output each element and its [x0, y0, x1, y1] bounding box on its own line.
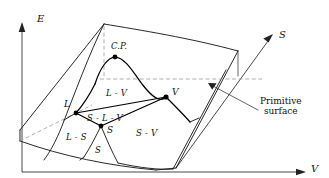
- diagram-canvas: [0, 0, 329, 178]
- region-label-liquid-solid: L - S: [66, 133, 87, 142]
- region-label-solid-liquid-vapor: S - L - V: [87, 114, 123, 123]
- energy-axis-label: E: [37, 14, 44, 25]
- surface-bottom-front-edge: [20, 141, 156, 170]
- liquid-point-dot: [74, 111, 79, 116]
- liquid-point-label: L: [64, 100, 70, 109]
- entropy-axis-line: [176, 41, 268, 168]
- vapor-point-label: V: [172, 88, 179, 97]
- critical-point-dot: [113, 55, 118, 60]
- primitive-surface-callout: Primitive surface: [260, 96, 302, 117]
- primitive-surface-outline: [20, 24, 238, 170]
- region-label-solid: S: [95, 146, 101, 155]
- entropy-axis-label: S: [279, 30, 286, 41]
- vapor-region-right-tick: [190, 118, 199, 122]
- primitive-surface-callout-line1: Primitive: [260, 96, 302, 106]
- solid-vapor-lower-boundary: [118, 163, 173, 169]
- solid-point-label: S: [107, 126, 113, 135]
- region-label-liquid-vapor: L - V: [106, 89, 127, 98]
- solid-point-dot: [99, 124, 104, 129]
- primitive-surface-callout-line2: surface: [260, 106, 302, 116]
- critical-point-label: C.P.: [111, 42, 127, 51]
- vapor-branch-curve: [166, 97, 190, 122]
- callout-arrowhead: [208, 83, 217, 90]
- energy-axis-arrowhead: [19, 22, 26, 32]
- volume-axis-label: V: [311, 164, 318, 175]
- volume-axis-arrowhead: [296, 169, 306, 176]
- callout-leader-line: [213, 86, 258, 110]
- primitive-surface-figure: E V S C.P. L V S L - V S - L - V S - V L…: [0, 0, 329, 178]
- surface-right-outer-edge: [176, 51, 238, 168]
- entropy-axis-arrowhead: [263, 34, 273, 42]
- surface-right-inner-edge: [173, 70, 226, 169]
- phase-boundary-curves: [64, 57, 199, 169]
- vapor-point-dot: [163, 94, 168, 99]
- tie-line-L-to-V: [76, 97, 166, 113]
- primitive-surface-callout-leader: [208, 83, 258, 110]
- region-label-solid-vapor: S - V: [136, 129, 157, 138]
